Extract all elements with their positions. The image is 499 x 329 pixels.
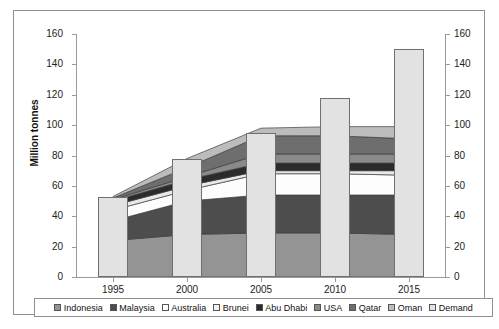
plot-area: 020406080100120140160 020406080100120140… <box>76 34 446 278</box>
y-axis-right-tick-label: 80 <box>454 151 494 161</box>
x-axis-tick-label: 2000 <box>157 284 217 295</box>
x-axis-tick-label: 2015 <box>379 284 439 295</box>
x-tick <box>261 278 262 282</box>
y-tick-right <box>446 156 450 157</box>
y-tick-right <box>446 277 450 278</box>
y-tick-left <box>72 95 76 96</box>
y-tick-right <box>446 125 450 126</box>
legend-item-abu-dhabi[interactable]: Abu Dhabi <box>256 303 308 313</box>
legend-swatch-icon <box>388 304 395 311</box>
legend-swatch-icon <box>54 304 61 311</box>
y-axis-left-tick-label: 100 <box>23 120 63 130</box>
x-tick <box>409 278 410 282</box>
y-tick-right <box>446 95 450 96</box>
y-axis-left-tick-label: 60 <box>23 181 63 191</box>
y-axis-left-tick-label: 140 <box>23 59 63 69</box>
legend-label: Abu Dhabi <box>265 303 307 313</box>
x-axis-tick-label: 2005 <box>231 284 291 295</box>
chart-frame: Million tonnes 020406080100120140160 020… <box>13 10 485 315</box>
x-tick <box>113 278 114 282</box>
x-tick <box>335 278 336 282</box>
y-axis-left-tick-label: 0 <box>23 272 63 282</box>
legend-label: Qatar <box>359 303 382 313</box>
legend-label: Demand <box>439 303 473 313</box>
y-axis-right-tick-label: 20 <box>454 242 494 252</box>
y-axis-right-tick-label: 120 <box>454 90 494 100</box>
y-tick-right <box>446 64 450 65</box>
cropped-header-sliver <box>0 0 499 9</box>
y-tick-left <box>72 247 76 248</box>
y-tick-right <box>446 247 450 248</box>
y-axis-left-tick-label: 40 <box>23 211 63 221</box>
legend-label: Australia <box>171 303 206 313</box>
chart-figure: Million tonnes 020406080100120140160 020… <box>0 0 499 329</box>
y-axis-left-tick-label: 160 <box>23 29 63 39</box>
legend-item-malaysia[interactable]: Malaysia <box>110 303 155 313</box>
y-tick-left <box>72 156 76 157</box>
y-axis-right-tick-label: 40 <box>454 211 494 221</box>
x-axis-tick-label: 1995 <box>83 284 143 295</box>
x-axis-tick-label: 2010 <box>305 284 365 295</box>
y-axis-right-tick-label: 100 <box>454 120 494 130</box>
y-tick-left <box>72 216 76 217</box>
y-axis-right-tick-label: 160 <box>454 29 494 39</box>
y-axis-left-line <box>76 34 77 278</box>
legend-item-indonesia[interactable]: Indonesia <box>54 303 103 313</box>
y-tick-left <box>72 277 76 278</box>
area-band-indonesia <box>113 233 409 277</box>
y-tick-left <box>72 34 76 35</box>
legend-item-demand[interactable]: Demand <box>429 303 473 313</box>
y-axis-left-tick-label: 120 <box>23 90 63 100</box>
y-axis-left-tick-label: 80 <box>23 151 63 161</box>
y-tick-right <box>446 216 450 217</box>
chart-legend: IndonesiaMalaysiaAustraliaBruneiAbu Dhab… <box>34 298 493 317</box>
legend-swatch-icon <box>349 304 356 311</box>
legend-item-oman[interactable]: Oman <box>388 303 422 313</box>
legend-item-qatar[interactable]: Qatar <box>349 303 381 313</box>
legend-label: Brunei <box>223 303 249 313</box>
y-axis-left-tick-label: 20 <box>23 242 63 252</box>
legend-label: Oman <box>398 303 423 313</box>
legend-swatch-icon <box>429 304 436 311</box>
y-tick-left <box>72 64 76 65</box>
legend-item-brunei[interactable]: Brunei <box>213 303 249 313</box>
y-axis-right-tick-label: 140 <box>454 59 494 69</box>
legend-swatch-icon <box>110 304 117 311</box>
y-tick-left <box>72 186 76 187</box>
legend-swatch-icon <box>314 304 321 311</box>
stacked-area-series <box>76 34 446 278</box>
y-axis-right-tick-label: 0 <box>454 272 494 282</box>
y-axis-right-tick-label: 60 <box>454 181 494 191</box>
y-tick-right <box>446 186 450 187</box>
legend-item-usa[interactable]: USA <box>314 303 342 313</box>
y-tick-left <box>72 125 76 126</box>
legend-item-australia[interactable]: Australia <box>162 303 207 313</box>
legend-label: Indonesia <box>64 303 103 313</box>
legend-swatch-icon <box>256 304 263 311</box>
x-tick <box>187 278 188 282</box>
y-tick-right <box>446 34 450 35</box>
legend-label: USA <box>324 303 343 313</box>
legend-swatch-icon <box>213 304 220 311</box>
legend-swatch-icon <box>162 304 169 311</box>
legend-label: Malaysia <box>119 303 155 313</box>
